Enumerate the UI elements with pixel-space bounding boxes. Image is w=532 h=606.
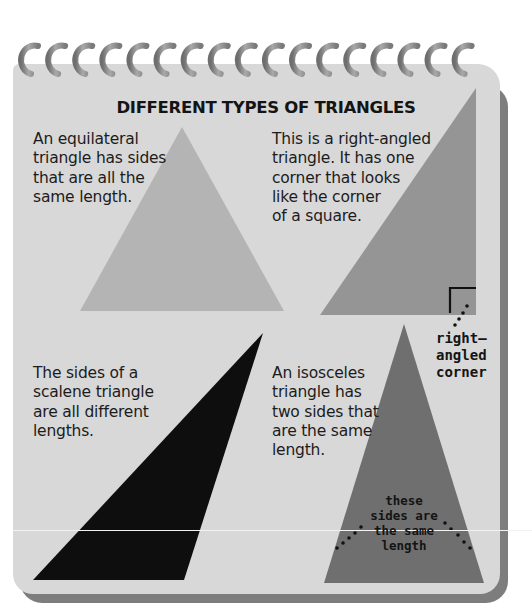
text-line: corner that looks bbox=[272, 169, 431, 188]
callout-line: the same bbox=[354, 523, 454, 538]
callout-line: angled bbox=[436, 347, 487, 364]
scalene-description: The sides of a scalene triangle are all … bbox=[33, 364, 154, 441]
equilateral-description: An equilateral triangle has sides that a… bbox=[33, 130, 166, 207]
isosceles-description: An isosceles triangle has two sides that… bbox=[272, 364, 379, 460]
text-line: scalene triangle bbox=[33, 383, 154, 402]
text-line: An equilateral bbox=[33, 130, 166, 149]
text-line: The sides of a bbox=[33, 364, 154, 383]
text-line: triangle has sides bbox=[33, 149, 166, 168]
text-line: are all different bbox=[33, 403, 154, 422]
text-line: length. bbox=[272, 441, 379, 460]
text-line: This is a right-angled bbox=[272, 130, 431, 149]
callout-line: sides are bbox=[354, 508, 454, 523]
callout-line: length bbox=[354, 538, 454, 553]
text-line: of a square. bbox=[272, 207, 431, 226]
right-angle-callout: right– angled corner bbox=[436, 330, 487, 381]
text-line: triangle. It has one bbox=[272, 149, 431, 168]
callout-line: corner bbox=[436, 364, 487, 381]
text-line: lengths. bbox=[33, 422, 154, 441]
right-angled-description: This is a right-angled triangle. It has … bbox=[272, 130, 431, 226]
callout-line: right– bbox=[436, 330, 487, 347]
divider-line bbox=[13, 530, 532, 531]
text-line: are the same bbox=[272, 422, 379, 441]
callout-line: these bbox=[354, 493, 454, 508]
text-line: An isosceles bbox=[272, 364, 379, 383]
text-line: that are all the bbox=[33, 169, 166, 188]
same-length-callout: these sides are the same length bbox=[354, 493, 454, 553]
text-line: triangle has bbox=[272, 383, 379, 402]
text-line: like the corner bbox=[272, 188, 431, 207]
text-line: two sides that bbox=[272, 403, 379, 422]
text-line: same length. bbox=[33, 188, 166, 207]
